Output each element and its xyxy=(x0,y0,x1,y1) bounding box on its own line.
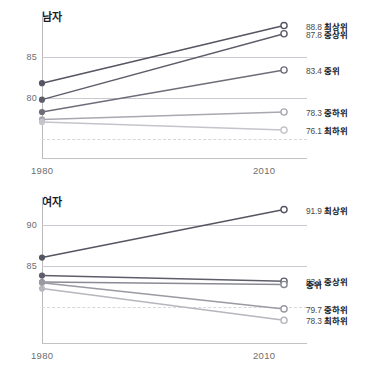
series-line-중위 xyxy=(42,70,284,112)
end-point-중위 xyxy=(281,281,287,287)
series-label-최하위: 78.3 최하위 xyxy=(306,314,348,326)
end-point-최상위 xyxy=(281,206,287,212)
x-tick-1980-male: 1980 xyxy=(31,165,53,176)
series-value-최상위: 91.9 xyxy=(306,206,324,216)
chart-female: 여자 908591.9 최상위83.1 중상위중위79.7 중하위78.3 최하… xyxy=(0,185,368,370)
end-point-중하위 xyxy=(281,306,287,312)
end-point-최상위 xyxy=(281,22,287,28)
series-lines xyxy=(42,199,284,339)
series-label-최하위: 76.1 최하위 xyxy=(306,124,348,136)
y-tick-85: 85 xyxy=(27,52,37,62)
end-point-최하위 xyxy=(281,127,287,133)
start-point-최하위 xyxy=(39,285,45,291)
series-name-중상위: 중상위 xyxy=(324,277,348,287)
start-point-최상위 xyxy=(39,80,45,86)
x-axis-line-female xyxy=(42,343,307,344)
series-value-중상위: 87.8 xyxy=(306,30,324,40)
start-point-중위 xyxy=(39,109,45,115)
series-name-중위: 중위 xyxy=(306,280,322,290)
y-tick-90: 90 xyxy=(27,220,37,230)
series-value-최하위: 78.3 xyxy=(306,316,324,326)
series-line-최상위 xyxy=(42,210,284,258)
series-line-중상위 xyxy=(42,34,284,100)
x-tick-1980-female: 1980 xyxy=(31,350,53,361)
end-point-중위 xyxy=(281,67,287,73)
plot-area-female: 908591.9 최상위83.1 중상위중위79.7 중하위78.3 최하위 xyxy=(42,199,284,339)
series-line-중하위 xyxy=(42,112,284,119)
series-label-중위: 중위 xyxy=(306,278,322,290)
series-name-중하위: 중하위 xyxy=(324,108,348,118)
start-point-중하위 xyxy=(39,280,45,286)
series-line-최하위 xyxy=(42,122,284,130)
start-point-최하위 xyxy=(39,119,45,125)
series-label-중하위: 79.7 중하위 xyxy=(306,303,348,315)
end-point-중하위 xyxy=(281,109,287,115)
series-name-중위: 중위 xyxy=(324,66,340,76)
series-label-중상위: 87.8 중상위 xyxy=(306,28,348,40)
series-name-최상위: 최상위 xyxy=(324,206,348,216)
plot-area-male: 858088.8 최상위87.8 중상위83.4 중위78.3 중하위76.1 … xyxy=(42,14,284,154)
x-tick-2010-male: 2010 xyxy=(253,165,275,176)
end-point-중상위 xyxy=(281,31,287,37)
series-label-중위: 83.4 중위 xyxy=(306,64,340,76)
series-line-최상위 xyxy=(42,26,284,84)
y-tick-85: 85 xyxy=(27,261,37,271)
series-name-최하위: 최하위 xyxy=(324,316,348,326)
series-name-중상위: 중상위 xyxy=(324,30,348,40)
series-label-최상위: 91.9 최상위 xyxy=(306,204,348,216)
series-line-중위 xyxy=(42,282,284,284)
start-point-중상위 xyxy=(39,97,45,103)
start-point-최상위 xyxy=(39,255,45,261)
series-line-중상위 xyxy=(42,276,284,282)
series-value-최하위: 76.1 xyxy=(306,126,324,136)
start-point-중상위 xyxy=(39,272,45,278)
series-value-중위: 83.4 xyxy=(306,66,324,76)
x-tick-2010-female: 2010 xyxy=(253,350,275,361)
chart-male: 남자 858088.8 최상위87.8 중상위83.4 중위78.3 중하위76… xyxy=(0,0,368,185)
y-tick-80: 80 xyxy=(27,93,37,103)
series-label-중하위: 78.3 중하위 xyxy=(306,106,348,118)
series-lines xyxy=(42,14,284,154)
series-name-최하위: 최하위 xyxy=(324,126,348,136)
series-value-중하위: 78.3 xyxy=(306,108,324,118)
x-axis-line-male xyxy=(42,158,307,159)
end-point-최하위 xyxy=(281,317,287,323)
